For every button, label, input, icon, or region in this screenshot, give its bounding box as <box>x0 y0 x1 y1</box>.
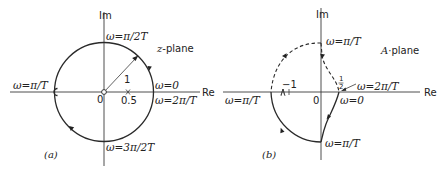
caption-b: (b) <box>262 149 276 160</box>
radius-line <box>104 58 136 92</box>
label-top: ω=π/2T <box>106 30 148 42</box>
label-right-arrow: ω=2π/T <box>357 80 399 92</box>
arrow-icon <box>282 53 287 58</box>
half-numerator: 1 <box>339 75 343 83</box>
figure: Im Re ω=π/2T z-plane 1 0 0.5 ω=π/T ω=0 ω… <box>0 0 446 173</box>
label-right-lower: ω=2π/T <box>155 94 197 106</box>
minus-one-label: −1 <box>282 79 297 90</box>
pole-label: 0.5 <box>121 95 137 106</box>
label-bottom: ω=3π/2T <box>106 141 155 153</box>
label-left: ω=π/T <box>225 94 261 106</box>
origin-label: 0 <box>313 95 319 106</box>
plane-label: z-plane <box>156 43 194 54</box>
dashed-locus-right <box>321 43 339 92</box>
label-right-upper: ω=0 <box>155 79 179 91</box>
origin-label: 0 <box>97 94 103 105</box>
plane-label: A·plane <box>380 45 419 56</box>
re-axis-label: Re <box>424 87 437 98</box>
im-axis-label: Im <box>316 9 329 20</box>
radius-arrowhead-icon <box>132 56 138 62</box>
label-left: ω=π/T <box>13 79 49 91</box>
panel-b-a-plane: Im Re ω=π/T A·plane −1 1 2 ω=2π/T ω=π/T … <box>223 8 437 160</box>
label-bottom: ω=π/T <box>325 137 361 149</box>
im-axis-label: Im <box>99 10 112 21</box>
label-top: ω=π/T <box>326 35 362 47</box>
re-axis-label: Re <box>202 87 215 98</box>
caption-a: (a) <box>44 149 58 160</box>
label-right-lower: ω=0 <box>340 94 364 106</box>
panel-a-z-plane: Im Re ω=π/2T z-plane 1 0 0.5 ω=π/T ω=0 ω… <box>10 10 215 166</box>
arrow-icon <box>279 127 285 133</box>
radius-label: 1 <box>124 74 130 85</box>
half-denominator: 2 <box>339 83 343 91</box>
